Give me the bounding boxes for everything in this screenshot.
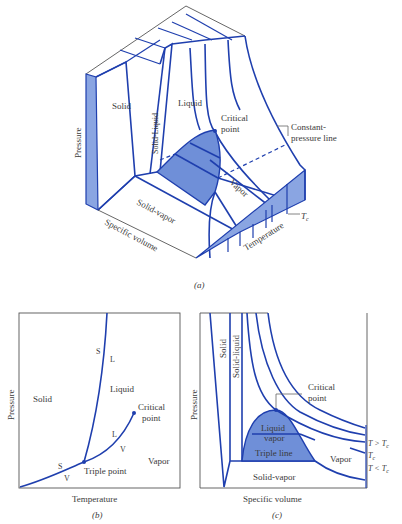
b-solid-label: Solid <box>33 394 53 404</box>
c-t-greater-label: T > Tc <box>368 439 389 449</box>
pvt-figure: Solid Liquid Solid-Liquid Critical point… <box>0 0 402 524</box>
c-critical-label-1: Critical <box>308 382 335 392</box>
a-constant-pressure-label-1: Constant- <box>291 122 326 132</box>
c-t-less-label: T < Tc <box>368 464 389 474</box>
a-caption: (a) <box>194 280 205 290</box>
a-tc-label: Tc <box>301 211 309 222</box>
a-specific-volume-axis: Specific volume <box>103 217 160 253</box>
a-critical-label-1: Critical <box>221 113 248 123</box>
a-solid-label: Solid <box>112 101 132 111</box>
b-s-top: S <box>96 347 100 356</box>
b-triple-point-label: Triple point <box>84 466 127 476</box>
b-liquid-label: Liquid <box>110 384 134 394</box>
b-v-mid: V <box>120 445 126 454</box>
b-pressure-axis: Pressure <box>6 390 16 421</box>
c-liquid-vapor-label-1: Liquid <box>261 423 285 433</box>
c-solid-vapor-label: Solid-vapor <box>253 472 296 482</box>
a-solid-vapor-label: Solid-vapor <box>135 197 177 226</box>
b-critical-label-2: point <box>142 413 161 423</box>
b-s-low: S <box>58 462 62 471</box>
a-critical-label-2: point <box>221 124 240 134</box>
c-t-critical-label: Tc <box>368 451 375 461</box>
c-solid-liquid-label: Solid-liquid <box>231 334 241 378</box>
c-caption: (c) <box>272 510 282 520</box>
c-critical-label-2: point <box>308 393 327 403</box>
b-caption: (b) <box>92 510 103 520</box>
c-triple-line-label: Triple line <box>255 448 292 458</box>
a-pressure-axis: Pressure <box>73 128 83 159</box>
c-pressure-axis: Pressure <box>189 390 199 421</box>
b-v-low: V <box>64 474 70 483</box>
a-vapor-label: Vapor <box>228 177 251 199</box>
c-solid-label: Solid <box>218 338 228 358</box>
a-liquid-label: Liquid <box>178 98 202 108</box>
b-critical-label-1: Critical <box>138 402 165 412</box>
a-solid-liquid-label: Solid-Liquid <box>151 113 160 154</box>
a-constant-pressure-label-2: pressure line <box>291 133 337 143</box>
b-l-top: L <box>110 355 115 364</box>
b-vapor-label: Vapor <box>148 456 170 466</box>
c-vapor-label: Vapor <box>330 454 352 464</box>
b-l-mid: L <box>112 430 117 439</box>
panel-a-surface <box>86 6 305 258</box>
c-specific-volume-axis: Specific volume <box>243 494 302 504</box>
c-liquid-vapor-label-2: vapor <box>264 433 285 443</box>
b-temperature-axis: Temperature <box>72 494 117 504</box>
